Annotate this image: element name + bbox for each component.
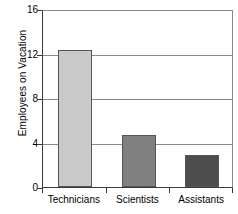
bar-technicians [58,50,92,187]
y-axis-tick-label: 0 [14,183,38,193]
plot-area [42,10,233,188]
y-axis-tick-label: 4 [14,139,38,149]
y-axis-tick [37,55,42,56]
y-axis-tick-labels: 0481216 [14,0,38,214]
y-axis-tick-label: 12 [14,50,38,60]
x-axis-tick [42,188,43,193]
bar-chart: Employees on Vacation 0481216 Technician… [0,0,238,214]
x-axis-label-technicians: Technicians [42,194,106,206]
y-axis-tick-label: 8 [14,94,38,104]
y-axis-tick [37,144,42,145]
x-axis-label-assistants: Assistants [169,194,233,206]
bar-scientists [122,135,156,187]
y-axis-tick [37,10,42,11]
gridline [43,10,232,11]
x-axis-tick [106,188,107,193]
bar-assistants [185,155,219,187]
y-axis-tick-label: 16 [14,5,38,15]
x-axis-tick [232,188,233,193]
x-axis-label-scientists: Scientists [106,194,170,206]
x-axis-tick [169,188,170,193]
y-axis-tick [37,99,42,100]
